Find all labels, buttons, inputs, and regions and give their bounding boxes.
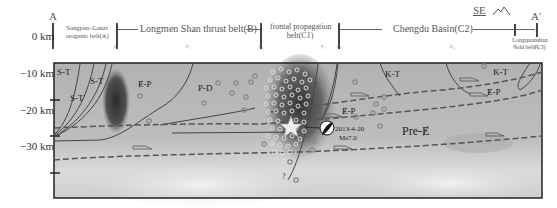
unit-label-st-1: S-T bbox=[57, 67, 71, 77]
unit-label-ep-3: Ɇ-P bbox=[487, 87, 501, 97]
cross-section-panel: ? bbox=[0, 0, 557, 208]
unit-label-st-2: S-T bbox=[70, 93, 84, 103]
unit-label-ep-2: Ɇ-P bbox=[342, 106, 356, 116]
unit-label-ep-1: Ɇ-P bbox=[138, 79, 152, 89]
event-magnitude: Ms7.0 bbox=[339, 134, 357, 142]
unit-label-st-3: S-T bbox=[90, 76, 104, 86]
unit-label-pd: P-D bbox=[198, 83, 213, 93]
svg-text:?: ? bbox=[282, 172, 286, 181]
event-date: 2013-4-20 bbox=[335, 125, 364, 133]
focal-mechanism-icon bbox=[320, 121, 334, 135]
unit-label-pre-cambrian: Pre-Ɇ bbox=[402, 124, 429, 139]
unit-label-kt-2: K-T bbox=[493, 67, 508, 77]
unit-label-kt-1: K-T bbox=[385, 69, 400, 79]
